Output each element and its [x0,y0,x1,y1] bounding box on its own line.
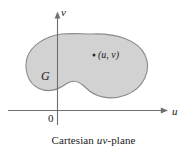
u-axis-arrowhead [161,108,168,114]
origin-label: 0 [48,113,54,124]
point-uv-marker [93,54,96,57]
cartesian-uv-plane-figure: v u 0 G (u, v) Cartesian uv-plane [0,0,187,151]
v-axis-label: v [61,7,66,18]
region-g-label: G [41,70,50,82]
v-axis-arrowhead [55,12,61,19]
caption-suffix: -plane [107,134,135,146]
uv-plane-diagram [0,0,187,151]
u-axis-label: u [172,106,178,117]
caption-variables: uv [97,134,108,146]
region-g-shape [26,34,147,98]
point-uv-label: (u, v) [98,50,119,60]
caption-prefix: Cartesian [52,134,97,146]
figure-caption: Cartesian uv-plane [0,134,187,146]
